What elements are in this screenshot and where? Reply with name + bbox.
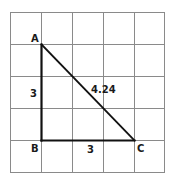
side-label-ab: 3 xyxy=(30,88,37,99)
triangle-diagram: A B C 3 3 4.24 xyxy=(0,0,174,183)
vertex-label-c: C xyxy=(137,143,144,154)
side-label-ac: 4.24 xyxy=(91,84,116,95)
vertex-label-a: A xyxy=(31,33,39,44)
triangle-abc xyxy=(42,45,135,141)
side-label-bc: 3 xyxy=(87,144,94,155)
side-ac xyxy=(42,45,135,141)
vertex-label-b: B xyxy=(31,143,39,154)
